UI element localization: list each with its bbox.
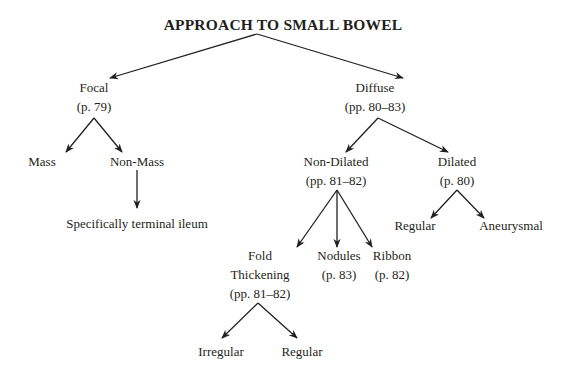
page-reference: (p. 79) xyxy=(77,97,112,116)
node-label: Irregular xyxy=(198,342,243,361)
arrow-diffuse-to-non-dilated xyxy=(346,118,378,152)
node-label: Regular xyxy=(281,342,322,361)
arrow-focal-to-non-mass xyxy=(94,118,122,152)
node-label: Nodules xyxy=(317,246,360,265)
node-label: Thickening xyxy=(230,265,291,284)
arrow-fold-to-regular xyxy=(258,303,297,338)
page-reference: (p. 83) xyxy=(317,265,360,284)
arrow-diffuse-to-dilated xyxy=(378,118,448,152)
arrow-non-dilated-to-fold-thickening xyxy=(297,190,337,247)
page-reference: (p. 82) xyxy=(373,265,411,284)
node-label: Ribbon xyxy=(373,246,411,265)
node-label: Focal xyxy=(77,78,112,97)
page-reference: (pp. 81–82) xyxy=(230,284,291,303)
node-label: Non-Mass xyxy=(110,152,164,171)
arrow-non-dilated-to-ribbon xyxy=(337,190,372,247)
node-label: Diffuse xyxy=(345,78,406,97)
node-label: Dilated xyxy=(438,152,476,171)
flowchart-arrows xyxy=(0,0,566,371)
node-irregular: Irregular xyxy=(198,342,243,361)
node-label: Regular xyxy=(394,216,435,235)
arrow-title-to-focal xyxy=(110,34,257,78)
node-terminal-ileum: Specifically terminal ileum xyxy=(66,214,208,233)
node-label: Specifically terminal ileum xyxy=(66,214,208,233)
node-fold-regular: Regular xyxy=(281,342,322,361)
node-mass: Mass xyxy=(28,152,55,171)
arrow-focal-to-mass xyxy=(66,118,94,152)
node-label: Non-Dilated xyxy=(304,152,369,171)
arrow-title-to-diffuse xyxy=(257,34,403,78)
node-fold-thickening: Fold Thickening (pp. 81–82) xyxy=(230,246,291,303)
node-label: Mass xyxy=(28,152,55,171)
node-nodules: Nodules (p. 83) xyxy=(317,246,360,284)
arrow-dilated-to-aneurysmal xyxy=(457,190,484,218)
node-non-dilated: Non-Dilated (pp. 81–82) xyxy=(304,152,369,190)
node-dilated: Dilated (p. 80) xyxy=(438,152,476,190)
node-label: Fold xyxy=(230,246,291,265)
node-non-mass: Non-Mass xyxy=(110,152,164,171)
node-dilated-regular: Regular xyxy=(394,216,435,235)
page-reference: (pp. 81–82) xyxy=(304,171,369,190)
node-focal: Focal (p. 79) xyxy=(77,78,112,116)
node-ribbon: Ribbon (p. 82) xyxy=(373,246,411,284)
page-reference: (pp. 80–83) xyxy=(345,97,406,116)
node-aneurysmal: Aneurysmal xyxy=(479,216,543,235)
diagram-title: APPROACH TO SMALL BOWEL xyxy=(164,16,403,34)
arrow-dilated-to-regular xyxy=(431,190,457,218)
node-diffuse: Diffuse (pp. 80–83) xyxy=(345,78,406,116)
node-label: Aneurysmal xyxy=(479,216,543,235)
arrow-fold-to-irregular xyxy=(222,303,258,338)
page-reference: (p. 80) xyxy=(438,171,476,190)
